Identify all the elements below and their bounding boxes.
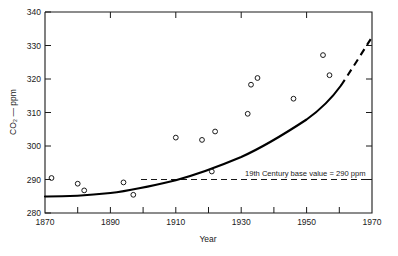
chart-background [0, 0, 398, 256]
co2-trend-chart: 280 290 300 310 320 330 340 [0, 0, 398, 256]
y-label-340: 340 [27, 7, 41, 17]
base-value-annotation: 19th Century base value = 290 ppm [245, 169, 366, 178]
x-label-1970: 1970 [363, 217, 382, 227]
y-label-330: 330 [27, 41, 41, 51]
y-label-310: 310 [27, 108, 41, 118]
y-axis-title: CO₂ — ppm [8, 89, 18, 135]
y-label-290: 290 [27, 175, 41, 185]
y-label-300: 300 [27, 141, 41, 151]
x-label-1950: 1950 [297, 217, 316, 227]
x-axis-title: Year [199, 234, 216, 244]
chart-svg: 280 290 300 310 320 330 340 [0, 0, 398, 256]
x-label-1890: 1890 [101, 217, 120, 227]
y-label-320: 320 [27, 74, 41, 84]
x-label-1910: 1910 [166, 217, 185, 227]
x-label-1870: 1870 [36, 217, 55, 227]
x-label-1930: 1930 [232, 217, 251, 227]
